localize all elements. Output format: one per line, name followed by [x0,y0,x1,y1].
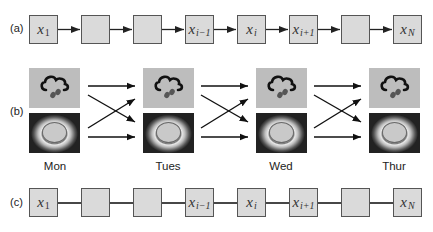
node-a-blank-2 [81,15,110,44]
panel-c-label: (c) [10,196,23,208]
node-a-x-N: xN [393,15,422,44]
node-var: x [400,194,407,211]
day-label-wed: Wed [251,160,311,172]
node-a-blank-3 [133,15,162,44]
node-subscript: i+1 [300,200,315,211]
node-a-x1: x1 [29,15,58,44]
node-subscript: N [408,27,415,38]
rain-cloud-tile [29,68,80,108]
sun-icon [269,122,294,143]
node-c-x-i-plus-1: xi+1 [289,188,318,217]
node-subscript: 1 [45,200,50,211]
node-subscript: i−1 [196,200,211,211]
rain-cloud-tile [256,68,307,108]
sun-tile [369,113,420,153]
node-a-x-i-minus-1: xi−1 [185,15,214,44]
node-var: x [37,194,44,211]
node-subscript: i [254,200,257,211]
panel-b-transitions [88,86,361,137]
rain-cloud-icon [377,73,413,103]
node-var: x [292,194,299,211]
node-c-x1: x1 [29,188,58,217]
day-label-tues: Tues [138,160,198,172]
rain-cloud-icon [37,73,73,103]
node-c-blank-7 [341,188,370,217]
node-c-x-i: xi [237,188,266,217]
node-a-x-i: xi [237,15,266,44]
node-var: x [246,194,253,211]
rain-cloud-icon [264,73,300,103]
sun-icon [156,122,181,143]
node-var: x [246,21,253,38]
node-var: x [37,21,44,38]
panel-a-label: (a) [10,22,23,34]
day-label-thur: Thur [364,160,424,172]
rain-cloud-tile [369,68,420,108]
node-c-blank-2 [81,188,110,217]
sun-tile [143,113,194,153]
sun-icon [42,122,67,143]
node-subscript: i [254,27,257,38]
sun-icon [382,122,407,143]
node-c-x-N: xN [393,188,422,217]
node-var: x [292,21,299,38]
node-subscript: i+1 [300,27,315,38]
node-a-blank-7 [341,15,370,44]
node-var: x [188,21,195,38]
node-a-x-i-plus-1: xi+1 [289,15,318,44]
node-subscript: i−1 [196,27,211,38]
rain-cloud-icon [151,73,187,103]
node-c-x-i-minus-1: xi−1 [185,188,214,217]
node-c-blank-3 [133,188,162,217]
node-subscript: 1 [45,27,50,38]
node-var: x [188,194,195,211]
node-subscript: N [408,200,415,211]
sun-tile [29,113,80,153]
panel-b-label: (b) [10,105,23,117]
rain-cloud-tile [143,68,194,108]
sun-tile [256,113,307,153]
node-var: x [400,21,407,38]
day-label-mon: Mon [25,160,85,172]
